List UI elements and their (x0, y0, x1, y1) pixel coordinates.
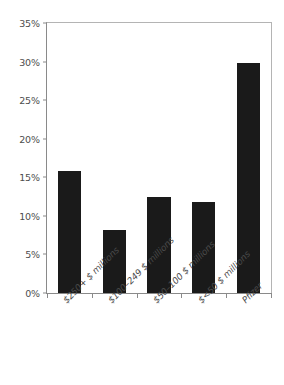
x-axis-labels: $250+ $ millions$100–249 $ millions$50–1… (46, 298, 270, 378)
bar-slot (47, 23, 92, 293)
x-axis-tick-mark (271, 293, 272, 298)
bar-chart: 0%5%10%15%20%25%30%35% $250+ $ millions$… (0, 0, 284, 385)
bar[interactable] (58, 171, 81, 293)
